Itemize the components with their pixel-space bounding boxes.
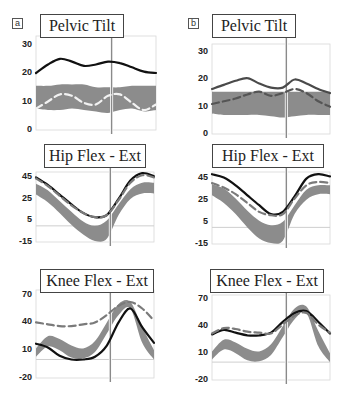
chart-pelvic-tilt-a <box>36 36 156 130</box>
chart-title-pelvic-tilt-b: Pelvic Tilt <box>212 14 296 38</box>
y-tick-label: -20 <box>14 372 32 382</box>
y-tick-label: 0 <box>190 128 208 138</box>
chart-title-pelvic-tilt-a: Pelvic Tilt <box>40 14 124 38</box>
chart-title-hip-flex-ext-a: Hip Flex - Ext <box>44 144 146 168</box>
y-tick-label: 10 <box>14 344 32 354</box>
chart-pelvic-tilt-b <box>212 44 330 134</box>
chart-hip-flex-ext-a <box>36 172 154 242</box>
y-tick-label: 5 <box>14 214 32 224</box>
plot-area <box>212 172 330 244</box>
y-tick-label: 10 <box>14 96 32 106</box>
plot-area <box>36 290 154 378</box>
plot-area <box>36 36 156 130</box>
y-tick-label: 70 <box>190 293 208 303</box>
chart-hip-flex-ext-b <box>212 172 330 244</box>
y-tick-label: 40 <box>190 320 208 330</box>
chart-knee-flex-ext-b <box>212 295 330 380</box>
subject-line <box>36 59 156 73</box>
subject-line <box>36 308 154 359</box>
panel-label-a: a <box>12 18 23 29</box>
y-tick-label: 10 <box>190 101 208 111</box>
subject-line <box>36 173 154 217</box>
y-tick-label: -15 <box>190 238 208 248</box>
y-tick-label: 30 <box>190 46 208 56</box>
panel-label-b: b <box>188 18 199 29</box>
y-tick-label: 25 <box>190 194 208 204</box>
plot-area <box>212 295 330 380</box>
y-tick-label: 10 <box>190 347 208 357</box>
plot-area <box>36 172 154 242</box>
y-tick-label: 20 <box>14 67 32 77</box>
y-tick-label: 20 <box>190 73 208 83</box>
y-tick-label: 40 <box>14 316 32 326</box>
y-tick-label: 45 <box>14 171 32 181</box>
chart-knee-flex-ext-a <box>36 290 154 378</box>
chart-title-knee-flex-ext-a: Knee Flex - Ext <box>40 269 154 293</box>
plot-area <box>212 44 330 134</box>
y-tick-label: 0 <box>14 124 32 134</box>
y-tick-label: -15 <box>14 236 32 246</box>
y-tick-label: 5 <box>190 216 208 226</box>
y-tick-label: 25 <box>14 193 32 203</box>
chart-title-knee-flex-ext-b: Knee Flex - Ext <box>210 269 324 293</box>
chart-title-hip-flex-ext-b: Hip Flex - Ext <box>212 144 324 168</box>
y-tick-label: 30 <box>14 39 32 49</box>
subject-line <box>212 78 330 93</box>
y-tick-label: 70 <box>14 289 32 299</box>
y-tick-label: -20 <box>190 374 208 384</box>
y-tick-label: 45 <box>190 172 208 182</box>
